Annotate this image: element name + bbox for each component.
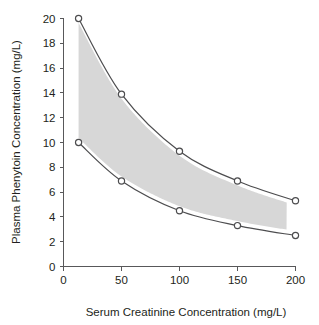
data-point-marker	[75, 15, 81, 21]
x-tick-label: 200	[286, 274, 305, 286]
y-tick-label: 14	[43, 87, 56, 99]
data-point-marker	[118, 178, 124, 184]
y-tick-label: 4	[49, 211, 56, 223]
data-point-marker	[75, 139, 81, 145]
x-tick-label: 50	[115, 274, 128, 286]
y-axis-title: Plasma Phenytoin Concentration (mg/L)	[10, 40, 22, 244]
y-tick-label: 20	[43, 13, 56, 25]
x-tick-label: 150	[228, 274, 247, 286]
x-axis-ticks: 050100150200	[60, 267, 305, 286]
x-tick-label: 100	[170, 274, 189, 286]
y-tick-label: 2	[49, 236, 55, 248]
data-point-marker	[234, 222, 240, 228]
y-tick-label: 18	[43, 37, 56, 49]
chart-plot-area: 02468101214161820 050100150200 Serum Cre…	[0, 0, 319, 325]
y-tick-label: 16	[43, 62, 56, 74]
x-tick-label: 0	[60, 274, 66, 286]
data-point-marker	[176, 208, 182, 214]
data-point-marker	[234, 178, 240, 184]
data-point-marker	[292, 198, 298, 204]
y-tick-label: 0	[49, 261, 55, 273]
x-axis-title: Serum Creatinine Concentration (mg/L)	[86, 306, 287, 318]
y-tick-label: 8	[49, 161, 55, 173]
data-point-marker	[176, 148, 182, 154]
y-axis-ticks: 02468101214161820	[43, 13, 64, 273]
data-point-marker	[118, 91, 124, 97]
data-point-marker	[292, 232, 298, 238]
y-tick-label: 12	[43, 112, 56, 124]
shaded-range-band	[79, 23, 287, 230]
y-tick-label: 10	[43, 137, 56, 149]
y-tick-label: 6	[49, 186, 55, 198]
chart-figure: 02468101214161820 050100150200 Serum Cre…	[0, 0, 319, 325]
